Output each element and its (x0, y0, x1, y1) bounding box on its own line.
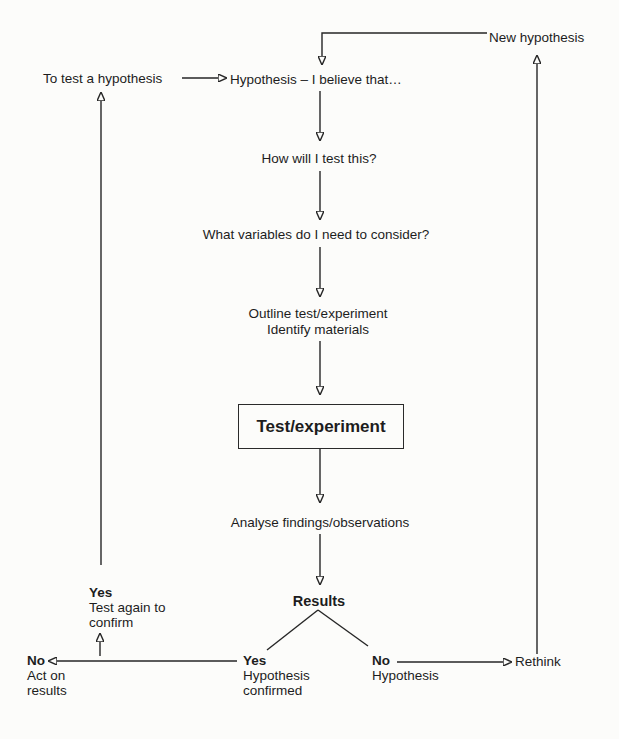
node-what-variables: What variables do I need to consider? (203, 227, 430, 242)
no-rejected-label: No (372, 653, 439, 668)
node-new-hypothesis: New hypothesis (489, 30, 584, 45)
yes-confirmed-label: Yes (243, 653, 310, 668)
outline-line-2: Identify materials (249, 322, 388, 338)
node-analyse-findings: Analyse findings/observations (231, 515, 410, 530)
yes-retest-line-2: confirm (89, 615, 166, 630)
node-test-experiment-box: Test/experiment (238, 404, 404, 449)
yes-confirmed-line-2: confirmed (243, 683, 310, 698)
edge-results-branch-no (318, 610, 368, 646)
no-rejected-line-1: Hypothesis (372, 668, 439, 683)
node-yes-test-again: Yes Test again to confirm (89, 585, 166, 630)
node-to-test-a-hypothesis: To test a hypothesis (43, 71, 162, 86)
outline-line-1: Outline test/experiment (249, 306, 388, 322)
node-how-will-i-test: How will I test this? (262, 151, 377, 166)
yes-confirmed-line-1: Hypothesis (243, 668, 310, 683)
test-experiment-label: Test/experiment (256, 417, 385, 437)
node-outline-test-experiment: Outline test/experiment Identify materia… (249, 306, 388, 338)
no-act-line-2: results (27, 683, 67, 698)
node-hypothesis-i-believe: Hypothesis – I believe that… (230, 72, 402, 87)
node-no-hypothesis: No Hypothesis (372, 653, 439, 683)
edge-new-hypothesis-to-hypothesis (322, 33, 487, 56)
no-act-label: No (27, 653, 67, 668)
yes-retest-label: Yes (89, 585, 166, 600)
node-rethink: Rethink (515, 654, 561, 669)
flowchart-page: New hypothesis To test a hypothesis Hypo… (0, 0, 619, 739)
node-yes-hypothesis-confirmed: Yes Hypothesis confirmed (243, 653, 310, 698)
node-no-act-on-results: No Act on results (27, 653, 67, 698)
edge-results-branch-yes (267, 610, 318, 650)
node-results: Results (293, 594, 345, 609)
no-act-line-1: Act on (27, 668, 67, 683)
yes-retest-line-1: Test again to (89, 600, 166, 615)
